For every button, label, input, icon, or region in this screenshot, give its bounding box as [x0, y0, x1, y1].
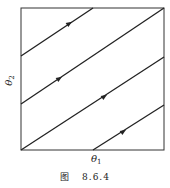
- y-label-subscript: 2: [8, 75, 16, 79]
- y-axis-label: θ2: [3, 75, 16, 86]
- x-label-subscript: 1: [97, 158, 101, 166]
- trajectory-1: [21, 8, 93, 56]
- trajectories: [21, 8, 164, 150]
- trajectory-3: [21, 57, 164, 150]
- plot-frame: [21, 8, 164, 150]
- direction-arrows: [56, 20, 128, 136]
- phase-diagram: [0, 0, 170, 188]
- figure-caption: 图8.6.4: [0, 170, 170, 183]
- x-axis-label: θ1: [91, 153, 102, 166]
- caption-prefix: 图: [60, 172, 70, 182]
- y-label-symbol: θ: [3, 80, 14, 86]
- caption-number: 8.6.4: [82, 172, 110, 182]
- trajectory-4: [93, 105, 164, 150]
- trajectory-2: [21, 8, 164, 104]
